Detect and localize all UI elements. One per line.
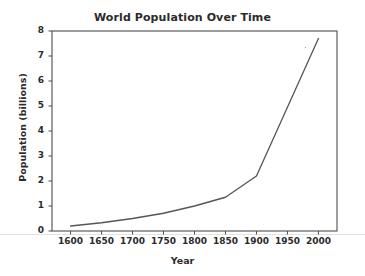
y-tick-label: 4 <box>24 125 44 135</box>
image-artifact-speck <box>305 47 306 48</box>
y-tick-label: 8 <box>24 25 44 35</box>
plot-canvas <box>0 0 365 276</box>
x-tick-label: 2000 <box>298 236 338 246</box>
y-tick-label: 5 <box>24 100 44 110</box>
y-tick-label: 2 <box>24 175 44 185</box>
y-tick-label: 1 <box>24 200 44 210</box>
plot-background <box>52 31 337 231</box>
y-tick-label: 7 <box>24 50 44 60</box>
chart-figure: World Population Over Time Population (b… <box>0 0 365 276</box>
y-tick-label: 0 <box>24 225 44 235</box>
y-tick-label: 3 <box>24 150 44 160</box>
y-tick-label: 6 <box>24 75 44 85</box>
